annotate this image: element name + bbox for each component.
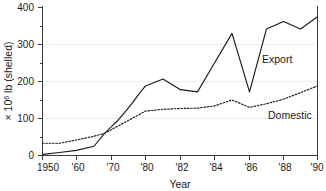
xtick-label-1980: '80: [140, 162, 153, 173]
xtick-label-1960: '60: [71, 162, 84, 173]
ytick-label-300: 300: [17, 39, 34, 50]
series-line-export: [43, 17, 318, 155]
xtick-label-1970: '70: [106, 162, 119, 173]
y-axis-title-prefix: × 10: [2, 100, 14, 121]
ytick-label-0: 0: [28, 150, 34, 161]
line-chart: 0 100 200 300 400 1950 '60 '70 '80 '82 '…: [0, 0, 326, 191]
ytick-label-200: 200: [17, 76, 34, 87]
xtick-label-1950: 1950: [37, 162, 60, 173]
ytick-label-400: 400: [17, 2, 34, 13]
y-axis: [38, 6, 43, 156]
x-axis-title: Year: [169, 178, 191, 190]
x-axis: [42, 156, 318, 161]
xtick-label-1982: '82: [175, 162, 188, 173]
chart-figure: 0 100 200 300 400 1950 '60 '70 '80 '82 '…: [0, 0, 326, 191]
series-label-export: Export: [262, 53, 292, 65]
y-axis-title-suffix: lb (shelled): [2, 42, 14, 96]
xtick-label-1986: '86: [244, 162, 257, 173]
xtick-label-1990: '90: [310, 162, 323, 173]
xtick-label-1988: '88: [278, 162, 291, 173]
ytick-label-100: 100: [17, 113, 34, 124]
series-label-domestic: Domestic: [268, 109, 312, 121]
xtick-label-1984: '84: [209, 162, 222, 173]
y-axis-title: × 106 lb (shelled): [2, 42, 14, 121]
